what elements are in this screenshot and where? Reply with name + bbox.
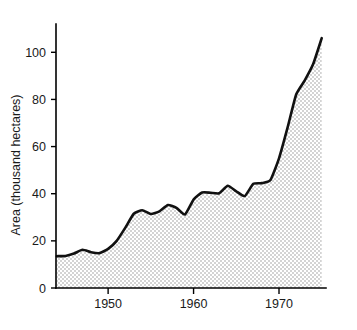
y-axis-title: Area (thousand hectares) — [9, 94, 23, 235]
y-tick-label: 100 — [25, 46, 46, 60]
x-tick-label: 1970 — [265, 297, 293, 311]
y-tick-label: 0 — [39, 282, 46, 296]
x-tick-label: 1950 — [94, 297, 122, 311]
x-tick-label: 1960 — [180, 297, 208, 311]
chart-container: 020406080100 195019601970 Area (thousand… — [0, 0, 357, 330]
y-tick-label: 60 — [32, 140, 46, 154]
area-chart: 020406080100 195019601970 Area (thousand… — [0, 0, 357, 330]
y-tick-label: 80 — [32, 93, 46, 107]
y-tick-label: 40 — [32, 187, 46, 201]
y-tick-label: 20 — [32, 234, 46, 248]
